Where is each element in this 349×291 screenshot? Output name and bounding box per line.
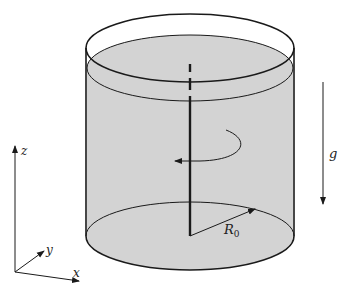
x-axis-icon — [15, 272, 79, 281]
coordinate-axes: z y x — [15, 144, 80, 281]
y-axis-icon — [15, 251, 44, 272]
gravity-label: g — [329, 146, 337, 161]
rotating-cylinder-diagram: R0 g z y x — [0, 0, 349, 291]
y-axis-label: y — [45, 243, 53, 257]
x-axis-label: x — [73, 266, 80, 280]
z-axis-label: z — [20, 144, 28, 158]
